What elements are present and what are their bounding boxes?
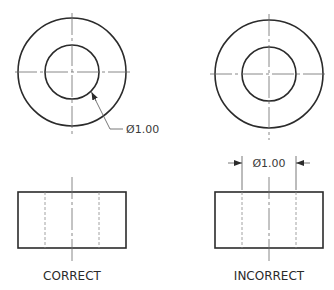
caption-incorrect: INCORRECT xyxy=(234,269,305,283)
drawing-canvas: Ø1.00 CORRECT Ø1.00 INCORRECT xyxy=(0,0,334,290)
left-front-view: CORRECT xyxy=(18,177,126,283)
dimension-label: Ø1.00 xyxy=(126,123,159,136)
leader-dimension: Ø1.00 xyxy=(92,92,160,136)
right-top-view xyxy=(210,14,328,140)
dimension-label: Ø1.00 xyxy=(252,157,285,170)
right-front-view: Ø1.00 INCORRECT xyxy=(215,156,323,283)
leader-arrow-icon xyxy=(92,92,97,101)
caption-correct: CORRECT xyxy=(43,269,101,283)
left-top-view: Ø1.00 xyxy=(15,13,159,136)
